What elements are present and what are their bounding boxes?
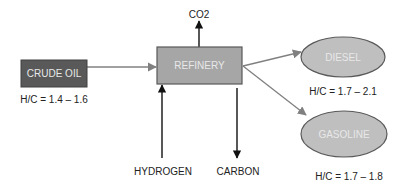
arrow-refinery-to-diesel [243, 52, 301, 66]
refinery-label: REFINERY [174, 60, 225, 71]
gasoline-hc-ratio: H/C = 1.7 – 1.8 [315, 171, 383, 182]
arrow-refinery-to-gasoline [243, 66, 306, 115]
gasoline-label: GASOLINE [318, 129, 369, 140]
refinery-process-diagram: CRUDE OIL H/C = 1.4 – 1.6 REFINERY DIESE… [0, 0, 410, 190]
diesel-hc-ratio: H/C = 1.7 – 2.1 [309, 86, 377, 97]
node-refinery: REFINERY [157, 47, 242, 84]
node-gasoline: GASOLINE [301, 111, 387, 157]
crude-oil-hc-ratio: H/C = 1.4 – 1.6 [20, 94, 88, 105]
diesel-label: DIESEL [325, 52, 361, 63]
co2-label: CO2 [189, 9, 210, 20]
crude-oil-label: CRUDE OIL [27, 68, 82, 79]
carbon-label: CARBON [217, 166, 260, 177]
node-crude-oil: CRUDE OIL [21, 60, 87, 87]
hydrogen-label: HYDROGEN [134, 166, 192, 177]
node-diesel: DIESEL [301, 37, 385, 77]
